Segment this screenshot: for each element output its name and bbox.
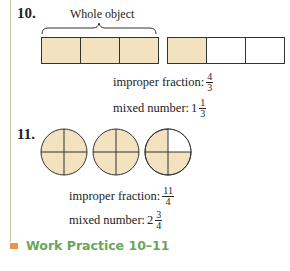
bar-partial (167, 37, 285, 64)
bar-cell (42, 38, 81, 63)
bar-cell (81, 38, 120, 63)
margin-rule (10, 0, 11, 242)
fraction-circles (38, 128, 198, 178)
bar-cell (246, 38, 284, 63)
circle-three-quarters (145, 129, 191, 175)
bar-cell (120, 38, 158, 63)
problem-10-number: 10. (17, 5, 36, 22)
bar-cell (168, 38, 207, 63)
brace-label: Whole object (70, 7, 134, 22)
bar-whole-object (41, 37, 159, 64)
circle-full (93, 129, 139, 175)
circle-full (41, 129, 87, 175)
improper-fraction-10: improper fraction: 43 (113, 72, 213, 93)
orange-square-icon (10, 243, 18, 249)
work-practice-heading: Work Practice 10–11 (10, 238, 169, 253)
mixed-number-11: mixed number: 2 34 (69, 210, 162, 231)
mixed-number-10: mixed number: 1 13 (113, 98, 206, 119)
improper-fraction-11: improper fraction: 114 (69, 186, 174, 207)
brace-icon (40, 22, 160, 36)
bar-cell (207, 38, 246, 63)
problem-11-number: 11. (17, 126, 35, 143)
